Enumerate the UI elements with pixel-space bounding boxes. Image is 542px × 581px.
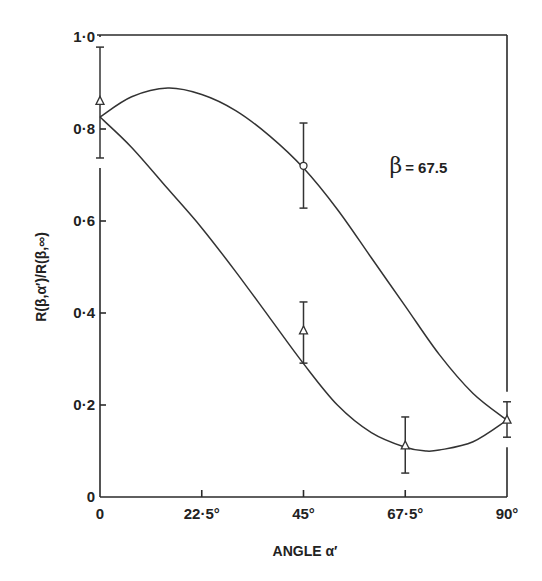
y-tick-label: 0 [87,488,95,505]
triangle-marker [96,96,104,104]
chart: 00·20·40·60·81·0 022·5°45°67·5°90° β= 67… [0,0,542,581]
y-axis-title: R(β,α′)/R(β,∞) [33,232,49,322]
x-tick-label: 0 [96,505,104,522]
data-point [401,417,409,473]
beta-annotation: β= 67.5 [389,153,447,178]
data-point [96,47,104,158]
y-tick-label: 0·8 [73,120,95,137]
plot-frame [97,35,507,497]
y-tick-label: 0·4 [73,304,95,321]
x-axis-title: ANGLE α′ [273,543,338,559]
x-tick-label: 90° [496,505,519,522]
x-tick-label: 22·5° [184,505,220,522]
triangle-marker [503,415,511,423]
triangle-marker [300,326,308,334]
triangle-marker [401,441,409,449]
beta-value: = 67.5 [405,159,447,176]
x-tick-label: 67·5° [387,505,423,522]
x-tick-label: 45° [292,505,315,522]
y-tick-label: 0·6 [73,212,95,229]
beta-symbol: β [389,153,402,178]
y-tick-label: 1·0 [73,28,95,45]
data-points [96,47,511,473]
circle-marker [300,162,307,169]
data-point [300,302,308,363]
data-point [300,123,308,208]
y-tick-label: 0·2 [73,396,95,413]
data-point [503,402,511,437]
x-axis-ticks: 022·5°45°67·5°90° [96,490,519,522]
